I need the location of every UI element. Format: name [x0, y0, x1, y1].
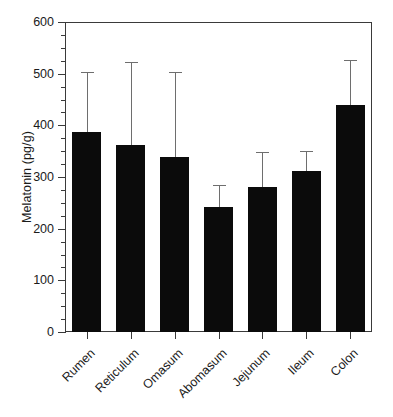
error-bar-cap [125, 62, 138, 63]
error-bar-stem [262, 152, 263, 187]
x-axis-tick [87, 332, 88, 339]
y-axis-tick-label: 300 [10, 171, 54, 184]
y-axis-minor-tick [61, 267, 66, 268]
y-axis-major-tick [58, 22, 66, 23]
bar [72, 132, 101, 332]
bar [248, 187, 277, 332]
error-bar-stem [219, 185, 220, 207]
y-axis-minor-tick [61, 151, 66, 152]
error-bar-cap [169, 72, 182, 73]
error-bar-stem [131, 62, 132, 145]
y-axis-minor-tick [61, 242, 66, 243]
y-axis-minor-tick [61, 35, 66, 36]
error-bar-stem [306, 151, 307, 171]
x-axis-tick [262, 332, 263, 339]
y-axis-minor-tick [61, 319, 66, 320]
y-axis-minor-tick [61, 112, 66, 113]
bar [336, 105, 365, 332]
y-axis-minor-tick [61, 100, 66, 101]
error-bar-cap [256, 152, 269, 153]
y-axis-minor-tick [61, 87, 66, 88]
y-axis-tick-label: 200 [10, 223, 54, 236]
x-axis-tick [131, 332, 132, 339]
y-axis-minor-tick [61, 306, 66, 307]
bar [160, 157, 189, 332]
y-axis-tick-label: 100 [10, 274, 54, 287]
error-bar-stem [350, 60, 351, 105]
y-axis-minor-tick [61, 190, 66, 191]
y-axis-tick-label: 0 [10, 326, 54, 339]
y-axis-major-tick [58, 229, 66, 230]
y-axis-minor-tick [61, 293, 66, 294]
y-axis-major-tick [58, 125, 66, 126]
melatonin-bar-chart: Melatonin (pg/g) 0100200300400500600 Rum… [0, 0, 393, 417]
y-axis-minor-tick [61, 164, 66, 165]
x-axis-tick [175, 332, 176, 339]
y-axis-minor-tick [61, 48, 66, 49]
x-axis-tick [219, 332, 220, 339]
bar [116, 145, 145, 332]
y-axis-major-tick [58, 74, 66, 75]
bar [292, 171, 321, 332]
y-axis-major-tick [58, 177, 66, 178]
error-bar-cap [213, 185, 226, 186]
y-axis-major-tick [58, 280, 66, 281]
error-bar-cap [81, 72, 94, 73]
x-axis-tick [350, 332, 351, 339]
y-axis-minor-tick [61, 61, 66, 62]
y-axis-minor-tick [61, 203, 66, 204]
y-axis-minor-tick [61, 255, 66, 256]
error-bar-cap [300, 151, 313, 152]
bar [204, 207, 233, 332]
error-bar-cap [344, 60, 357, 61]
y-axis-minor-tick [61, 138, 66, 139]
y-axis-tick-label: 600 [10, 16, 54, 29]
error-bar-stem [175, 72, 176, 157]
y-axis-tick-label: 500 [10, 68, 54, 81]
y-axis-minor-tick [61, 216, 66, 217]
y-axis-tick-label: 400 [10, 119, 54, 132]
x-axis-tick [306, 332, 307, 339]
error-bar-stem [87, 72, 88, 132]
y-axis-major-tick [58, 332, 66, 333]
